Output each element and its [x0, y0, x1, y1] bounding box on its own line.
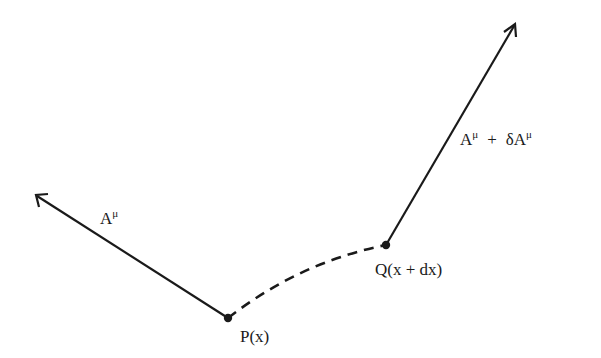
label-a-mu: Aμ [100, 207, 118, 228]
label-point-q: Q(x + dx) [375, 260, 442, 279]
point-q-dot [382, 241, 390, 249]
label-a-mu-plus-delta-a-mu: Aμ+δAμ [460, 128, 532, 149]
arrowhead-icon [36, 194, 48, 207]
diagram-canvas: Aμ Aμ+δAμ P(x) Q(x + dx) [0, 0, 601, 358]
point-p-dot [224, 314, 232, 322]
dashed-path-p-to-q [228, 245, 386, 318]
vector-a-at-p [36, 194, 228, 318]
label-point-p: P(x) [240, 327, 269, 346]
arrowhead-icon [504, 24, 516, 37]
